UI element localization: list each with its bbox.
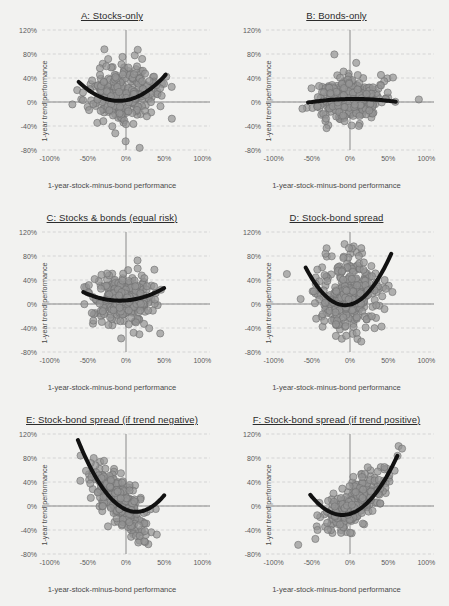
scatter-point <box>353 314 360 321</box>
xtick-label: -100% <box>40 155 60 162</box>
y-axis-label: 1-year trend performance <box>264 60 273 141</box>
scatter-point <box>330 490 337 497</box>
scatter-point <box>283 270 290 277</box>
scatter-point <box>324 278 331 285</box>
scatter-point <box>368 273 375 280</box>
scatter-point <box>340 112 347 119</box>
xtick-label: -100% <box>264 559 284 566</box>
scatter-point <box>97 285 104 292</box>
scatter-point <box>128 314 135 321</box>
scatter-point <box>360 266 367 273</box>
scatter-point <box>137 307 144 314</box>
scatter-point <box>353 329 360 336</box>
scatter-point <box>114 488 121 495</box>
scatter-point <box>107 314 114 321</box>
x-axis-label: 1-year-stock-minus-bond performance <box>0 181 224 190</box>
ytick-label: -40% <box>21 123 37 130</box>
scatter-point <box>322 115 329 122</box>
scatter-point <box>130 120 137 127</box>
scatter-point <box>333 288 340 295</box>
scatter-point <box>118 335 125 342</box>
scatter-point <box>345 244 352 251</box>
xtick-label: 50% <box>157 357 171 364</box>
scatter-point <box>115 88 122 95</box>
xtick-label: 0% <box>121 155 131 162</box>
ytick-label: -80% <box>245 551 261 558</box>
scatter-point <box>323 125 330 132</box>
scatter-point <box>157 103 164 110</box>
scatter-point <box>373 302 380 309</box>
scatter-point <box>310 288 317 295</box>
scatter-point <box>151 296 158 303</box>
xtick-label: -100% <box>40 357 60 364</box>
scatter-point <box>327 90 334 97</box>
ytick-label: 0% <box>251 503 261 510</box>
scatter-point <box>314 266 321 273</box>
scatter-point <box>85 107 92 114</box>
ytick-label: 80% <box>247 253 261 260</box>
scatter-point <box>314 103 321 110</box>
scatter-point <box>374 468 381 475</box>
chart-panel-a: A: Stocks-only120%80%40%0%-40%-80%-100%-… <box>0 0 224 202</box>
scatter-point <box>314 526 321 533</box>
scatter-point <box>355 252 362 259</box>
ytick-label: 0% <box>251 301 261 308</box>
scatter-point <box>112 74 119 81</box>
scatter-point <box>398 445 405 452</box>
y-axis-label: 1-year trend performance <box>40 60 49 141</box>
scatter-point <box>313 315 320 322</box>
ytick-label: 0% <box>27 99 37 106</box>
scatter-point <box>322 250 329 257</box>
xtick-label: -50% <box>80 559 96 566</box>
scatter-point <box>347 529 354 536</box>
ytick-label: 120% <box>19 229 37 236</box>
scatter-point <box>126 519 133 526</box>
scatter-point <box>379 293 386 300</box>
y-axis-label: 1-year trend performance <box>40 262 49 343</box>
xtick-label: -50% <box>80 357 96 364</box>
xtick-label: 100% <box>193 559 211 566</box>
scatter-point <box>348 122 355 129</box>
scatter-point <box>348 275 355 282</box>
scatter-point <box>98 318 105 325</box>
xtick-label: 100% <box>417 357 435 364</box>
scatter-point <box>332 321 339 328</box>
scatter-point <box>141 528 148 535</box>
scatter-point <box>146 77 153 84</box>
scatter-point <box>88 309 95 316</box>
scatter-point <box>122 121 129 128</box>
scatter-point <box>331 503 338 510</box>
ytick-label: -80% <box>21 349 37 356</box>
scatter-point <box>381 463 388 470</box>
scatter-point <box>358 338 365 345</box>
ytick-label: 40% <box>23 479 37 486</box>
scatter-point <box>352 488 359 495</box>
scatter-point <box>319 311 326 318</box>
scatter-point <box>117 495 124 502</box>
scatter-point <box>168 115 175 122</box>
xtick-label: -100% <box>264 357 284 364</box>
ytick-label: 80% <box>23 253 37 260</box>
xtick-label: 0% <box>345 559 355 566</box>
scatter-point <box>297 295 304 302</box>
scatter-point <box>87 494 94 501</box>
scatter-point <box>96 71 103 78</box>
scatter-point <box>98 271 105 278</box>
scatter-point <box>324 519 331 526</box>
scatter-point <box>354 86 361 93</box>
scatter-point <box>151 283 158 290</box>
ytick-label: 40% <box>247 479 261 486</box>
chart-panel-c: C: Stocks & bonds (equal risk)120%80%40%… <box>0 202 224 404</box>
ytick-label: -40% <box>245 123 261 130</box>
scatter-point <box>141 275 148 282</box>
scatter-point <box>100 118 107 125</box>
scatter-point <box>338 268 345 275</box>
scatter-point <box>107 504 114 511</box>
scatter-point <box>139 55 146 62</box>
xtick-label: 50% <box>381 559 395 566</box>
scatter-point <box>103 63 110 70</box>
ytick-label: 120% <box>19 431 37 438</box>
plot-area-e: 120%80%40%0%-40%-80%-100%-50%0%50%100% <box>0 404 224 606</box>
scatter-point <box>125 108 132 115</box>
scatter-point <box>82 467 89 474</box>
